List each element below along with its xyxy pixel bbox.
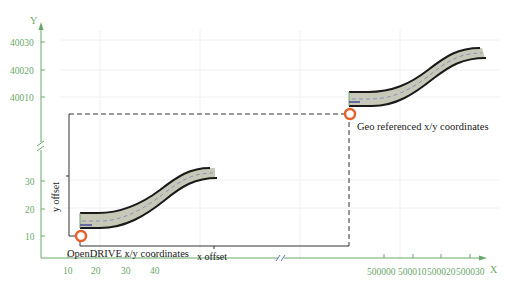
x-axis-arrow-icon [479, 256, 487, 261]
y-axis-arrow-icon [39, 22, 44, 30]
y-offset-label: y offset [50, 182, 61, 212]
y-tick-40030: 40030 [10, 38, 34, 48]
geo-origin-marker [345, 109, 355, 119]
local-road [80, 168, 217, 228]
y-tick-10: 10 [25, 232, 35, 242]
x-tick-10: 10 [63, 266, 73, 276]
x-tick-40: 40 [150, 266, 160, 276]
geo-origin-label: Geo referenced x/y coordinates [357, 121, 488, 132]
x-tick-500010: 500010 [398, 267, 427, 277]
x-axis-label: X [490, 264, 498, 275]
x-tick-30: 30 [121, 266, 131, 276]
y-tick-40010: 40010 [10, 93, 34, 103]
y-tick-30: 30 [25, 177, 35, 187]
offset-lines [66, 114, 349, 249]
y-tick-20: 20 [25, 205, 35, 215]
x-tick-500020: 500020 [427, 267, 456, 277]
local-origin-label: OpenDRIVE x/y coordinates [67, 248, 189, 259]
y-tick-40020: 40020 [10, 66, 34, 76]
x-tick-500030: 500030 [456, 267, 485, 277]
y-axis-label: Y [30, 15, 37, 26]
x-offset-label: x offset [197, 251, 227, 262]
y-axis [37, 22, 45, 258]
x-tick-20: 20 [91, 266, 101, 276]
local-origin-marker [76, 231, 86, 241]
x-tick-500000: 500000 [367, 267, 396, 277]
